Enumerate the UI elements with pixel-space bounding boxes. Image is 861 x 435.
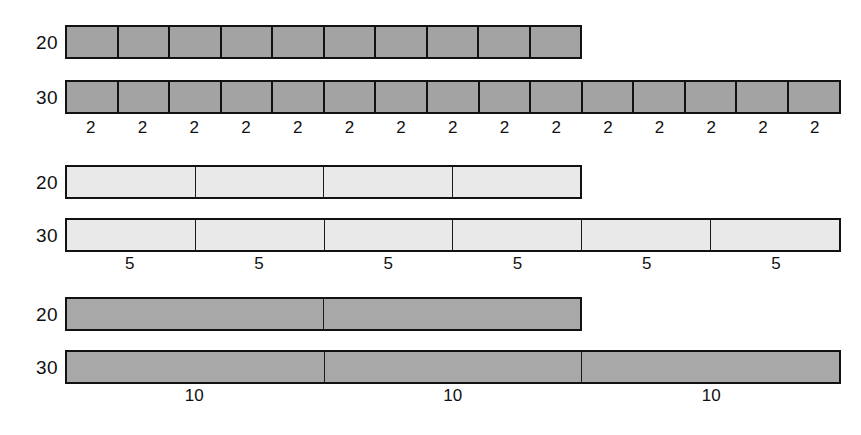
bar-segment (323, 167, 452, 197)
bar-segment (168, 27, 220, 57)
unit-caption: 5 (194, 253, 323, 275)
segmented-bar-20-unit-10 (65, 297, 582, 331)
bar-group-unit-2: 20 30 222222222222222 (0, 0, 861, 145)
bar-segment (452, 167, 581, 197)
unit-caption: 2 (375, 117, 427, 139)
bar-segment (117, 82, 169, 112)
bar-segment (477, 27, 529, 57)
bar-segment (374, 82, 426, 112)
unit-caption: 10 (582, 385, 841, 407)
unit-caption-strip-unit-10: 101010 (65, 385, 841, 407)
segmented-bar-30-unit-2 (65, 80, 841, 114)
bar-segment (684, 82, 736, 112)
bar-segment (324, 352, 582, 382)
bar-group-unit-5: 20 30 555555 (0, 145, 861, 285)
bar-segment (452, 220, 581, 250)
unit-caption: 5 (324, 253, 453, 275)
bar-segment (581, 82, 633, 112)
unit-caption: 10 (65, 385, 324, 407)
bar-segment (220, 82, 272, 112)
unit-caption-strip-unit-5: 555555 (65, 253, 841, 275)
unit-caption: 2 (685, 117, 737, 139)
unit-caption: 2 (324, 117, 376, 139)
bar-segment (271, 27, 323, 57)
bar-segment (374, 27, 426, 57)
segmented-bar-figure: 20 30 222222222222222 20 30 555555 20 30 (0, 0, 861, 435)
unit-caption: 2 (427, 117, 479, 139)
unit-caption: 2 (65, 117, 117, 139)
row-value-label: 20 (22, 305, 58, 324)
unit-caption: 2 (220, 117, 272, 139)
unit-caption: 5 (65, 253, 194, 275)
unit-caption: 2 (582, 117, 634, 139)
segmented-bar-30-unit-10 (65, 350, 841, 384)
bar-segment (323, 82, 375, 112)
bar-segment (67, 220, 195, 250)
row-value-label: 20 (22, 33, 58, 52)
unit-caption: 5 (582, 253, 711, 275)
bar-segment (529, 82, 581, 112)
unit-caption: 2 (737, 117, 789, 139)
bar-segment (168, 82, 220, 112)
unit-caption: 5 (711, 253, 840, 275)
bar-segment (195, 167, 324, 197)
bar-segment (220, 27, 272, 57)
bar-segment (117, 27, 169, 57)
bar-segment (710, 220, 839, 250)
unit-caption: 2 (272, 117, 324, 139)
bar-segment (529, 27, 581, 57)
unit-caption: 5 (453, 253, 582, 275)
bar-segment (426, 27, 478, 57)
bar-segment (323, 27, 375, 57)
segmented-bar-20-unit-5 (65, 165, 582, 199)
bar-segment (67, 299, 323, 329)
row-value-label: 30 (22, 226, 58, 245)
bar-segment (632, 82, 684, 112)
unit-caption: 2 (634, 117, 686, 139)
unit-caption: 2 (530, 117, 582, 139)
bar-segment (271, 82, 323, 112)
bar-segment (323, 299, 580, 329)
unit-caption: 2 (168, 117, 220, 139)
bar-segment (67, 167, 195, 197)
segmented-bar-30-unit-5 (65, 218, 841, 252)
row-value-label: 20 (22, 173, 58, 192)
bar-segment (195, 220, 324, 250)
bar-segment (67, 352, 324, 382)
unit-caption: 2 (789, 117, 841, 139)
unit-caption-strip-unit-2: 222222222222222 (65, 117, 841, 139)
bar-segment (735, 82, 787, 112)
row-value-label: 30 (22, 358, 58, 377)
bar-segment (478, 82, 530, 112)
unit-caption: 2 (117, 117, 169, 139)
segmented-bar-20-unit-2 (65, 25, 582, 59)
bar-segment (787, 82, 839, 112)
unit-caption: 2 (479, 117, 531, 139)
bar-group-unit-10: 20 30 101010 (0, 285, 861, 435)
unit-caption: 10 (324, 385, 583, 407)
bar-segment (426, 82, 478, 112)
bar-segment (581, 352, 839, 382)
bar-segment (67, 82, 117, 112)
row-value-label: 30 (22, 88, 58, 107)
bar-segment (581, 220, 710, 250)
bar-segment (324, 220, 453, 250)
bar-segment (67, 27, 117, 57)
